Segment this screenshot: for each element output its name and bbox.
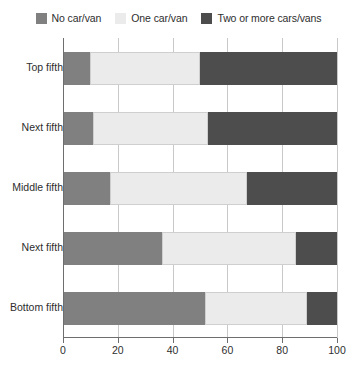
- chart-legend: No car/van One car/van Two or more cars/…: [0, 12, 357, 24]
- bar-rows: [63, 38, 337, 338]
- bar-row: [63, 292, 337, 325]
- bar-segment: [110, 172, 247, 205]
- bar-row: [63, 112, 337, 145]
- legend-item-one-car: One car/van: [115, 12, 187, 24]
- bar-row: [63, 172, 337, 205]
- y-axis-line: [63, 38, 64, 338]
- y-axis-label: Bottom fifth: [10, 301, 63, 313]
- x-axis-tick-label: 80: [276, 344, 288, 356]
- bar-segment: [63, 292, 205, 325]
- x-axis-tick-label: 40: [167, 344, 179, 356]
- x-axis-tick: [282, 338, 283, 343]
- plot-area: [63, 38, 337, 338]
- bar-segment: [208, 112, 337, 145]
- legend-swatch-one-car-icon: [115, 13, 126, 24]
- legend-swatch-two-plus-cars-icon: [201, 13, 212, 24]
- bar-segment: [90, 52, 200, 85]
- y-axis-label: Middle fifth: [12, 181, 63, 193]
- y-axis-label: Top fifth: [26, 61, 63, 73]
- gridline: [337, 38, 338, 338]
- y-axis-label: Next fifth: [22, 241, 63, 253]
- bar-segment: [205, 292, 306, 325]
- x-axis-tick-label: 20: [112, 344, 124, 356]
- bar-segment: [63, 112, 93, 145]
- y-axis-label: Next fifth: [22, 121, 63, 133]
- x-axis-tick: [337, 338, 338, 343]
- bar-segment: [200, 52, 337, 85]
- x-axis-tick: [227, 338, 228, 343]
- x-axis-tick: [63, 338, 64, 343]
- bar-segment: [63, 232, 162, 265]
- x-axis-tick: [118, 338, 119, 343]
- legend-label-one-car: One car/van: [131, 12, 187, 24]
- x-axis-tick-label: 100: [328, 344, 346, 356]
- bar-segment: [307, 292, 337, 325]
- bar-segment: [63, 172, 110, 205]
- bar-segment: [247, 172, 337, 205]
- chart-container: No car/van One car/van Two or more cars/…: [0, 0, 357, 366]
- bar-row: [63, 52, 337, 85]
- x-axis-tick-label: 0: [60, 344, 66, 356]
- x-axis-tick-label: 60: [222, 344, 234, 356]
- bar-segment: [162, 232, 296, 265]
- legend-label-no-car: No car/van: [52, 12, 102, 24]
- legend-swatch-no-car-icon: [36, 13, 47, 24]
- bar-segment: [63, 52, 90, 85]
- legend-item-two-plus-cars: Two or more cars/vans: [201, 12, 321, 24]
- bar-segment: [93, 112, 208, 145]
- x-axis-tick-labels: 020406080100: [0, 344, 357, 360]
- bar-segment: [296, 232, 337, 265]
- x-axis-tick: [173, 338, 174, 343]
- legend-item-no-car: No car/van: [36, 12, 102, 24]
- legend-label-two-plus-cars: Two or more cars/vans: [217, 12, 321, 24]
- bar-row: [63, 232, 337, 265]
